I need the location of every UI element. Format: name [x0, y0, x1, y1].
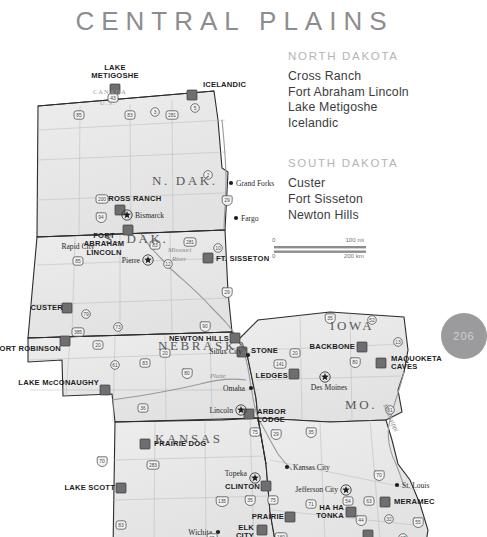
highway-shield[interactable]: 85: [74, 111, 84, 119]
highway-shield[interactable]: 29: [271, 430, 281, 440]
park-marker[interactable]: ELKCITY: [236, 523, 267, 537]
highway-shield[interactable]: 80: [350, 358, 360, 368]
highway-shield[interactable]: 63: [364, 497, 374, 505]
park-marker[interactable]: LAKE SCOTT: [64, 483, 126, 493]
city-dot-icon: [229, 181, 233, 185]
park-marker[interactable]: ICELANDIC: [187, 80, 246, 100]
city-label: Omaha: [223, 384, 246, 393]
river-label: Missouri: [167, 246, 192, 253]
highway-shield[interactable]: 29: [222, 196, 232, 206]
park-marker[interactable]: BACKBONE: [310, 342, 367, 352]
highway-shield[interactable]: 200: [96, 195, 108, 203]
highway-shield[interactable]: 160: [275, 533, 287, 537]
highway-shield[interactable]: 12: [164, 260, 173, 269]
city-marker[interactable]: Grand Forks: [229, 179, 274, 188]
park-label: STONE: [251, 346, 278, 355]
highway-shield[interactable]: 44: [356, 516, 366, 526]
shield-number: 70: [376, 473, 382, 478]
shield-number: 35: [247, 498, 253, 503]
city-label: Jefferson City: [295, 485, 338, 494]
highway-shield[interactable]: 83: [140, 359, 150, 367]
highway-shield[interactable]: 385: [72, 328, 84, 336]
highway-shield[interactable]: 36: [138, 404, 148, 412]
highway-shield[interactable]: 141: [274, 360, 286, 368]
city-label: Grand Forks: [236, 179, 274, 188]
park-label: CUSTER: [31, 303, 64, 312]
highway-shield[interactable]: 90: [200, 322, 210, 332]
highway-shield[interactable]: 281: [184, 238, 196, 246]
highway-shield[interactable]: 29: [222, 288, 232, 298]
shield-number: 141: [276, 362, 284, 367]
city-dot-icon: [285, 465, 289, 469]
park-marker[interactable]: CUSTER: [31, 303, 72, 313]
park-square-icon: [257, 525, 267, 535]
park-square-icon: [376, 358, 386, 368]
highway-shield[interactable]: 94: [96, 213, 106, 223]
highway-shield[interactable]: 73: [114, 323, 123, 332]
highway-shield[interactable]: 70: [97, 457, 107, 467]
shield-number: 55: [415, 520, 421, 525]
highway-shield[interactable]: 54: [343, 497, 353, 505]
city-marker[interactable]: Fargo: [234, 214, 259, 223]
city-label: Rapid City: [61, 242, 94, 251]
highway-shield[interactable]: 20: [93, 341, 103, 349]
state-label: N. DAK.: [152, 173, 218, 188]
park-label: FT. SISSETON: [216, 254, 269, 263]
shield-number: 44: [358, 518, 364, 523]
highway-shield[interactable]: 75: [250, 428, 260, 436]
park-marker[interactable]: LEDGES: [256, 369, 299, 380]
park-label: MAQUOKETACAVES: [391, 354, 442, 371]
highway-shield[interactable]: 55: [413, 518, 423, 528]
highway-shield[interactable]: 71: [306, 500, 316, 508]
map-graphic[interactable]: LAKEMETIGOSHEICELANDICCROSS RANCHFORTABR…: [0, 60, 469, 537]
highway-shield[interactable]: 13: [394, 338, 403, 347]
highway-shield[interactable]: 35: [306, 428, 316, 438]
shield-number: 75: [270, 498, 276, 503]
park-marker[interactable]: MERAMEC: [380, 497, 435, 507]
park-label: BACKBONE: [310, 342, 355, 351]
shield-number: 12: [165, 262, 171, 267]
highway-shield[interactable]: 283: [147, 461, 159, 469]
shield-number: 90: [202, 324, 208, 329]
highway-shield[interactable]: 32: [385, 515, 394, 524]
scale-value-top: 100 mi: [345, 236, 364, 243]
highway-shield[interactable]: 20: [290, 349, 300, 357]
highway-shield[interactable]: 10: [214, 244, 223, 253]
highway-shield[interactable]: 79: [82, 310, 91, 319]
park-marker[interactable]: PRAIRIE: [252, 512, 295, 522]
park-label: MERAMEC: [394, 497, 435, 506]
highway-shield[interactable]: 85: [73, 257, 83, 265]
park-square-icon: [203, 253, 213, 263]
park-label: ICELANDIC: [203, 80, 246, 89]
scale-value-bottom: 200 km: [344, 252, 364, 259]
highway-shield[interactable]: 83: [125, 111, 135, 119]
park-marker[interactable]: CLINTON: [225, 481, 271, 491]
highway-shield[interactable]: 35: [245, 496, 255, 506]
city-dot-icon: [216, 530, 220, 534]
city-dot-icon: [249, 386, 253, 390]
shield-number: 29: [224, 198, 230, 203]
shield-number: 54: [345, 499, 351, 504]
shield-number: 80: [184, 371, 190, 376]
shield-number: 85: [76, 113, 82, 118]
shield-number: 10: [215, 246, 221, 251]
park-marker[interactable]: FT. SISSETON: [203, 253, 269, 263]
city-label: Lincoln: [209, 406, 233, 415]
highway-shield[interactable]: 61: [111, 361, 120, 370]
city-label: Topeka: [225, 469, 248, 478]
city-label: St. Louis: [402, 481, 429, 490]
shield-number: 61: [112, 363, 118, 368]
highway-shield[interactable]: 5: [191, 104, 200, 113]
shield-number: 281: [168, 113, 176, 118]
highway-shield[interactable]: 70: [374, 471, 384, 481]
city-label: Des Moines: [311, 383, 348, 392]
highway-shield[interactable]: 3: [151, 108, 160, 117]
park-square-icon: [244, 409, 254, 419]
highway-shield[interactable]: 75: [268, 496, 278, 504]
highway-shield[interactable]: 80: [182, 369, 192, 379]
highway-shield[interactable]: 83: [116, 521, 126, 529]
highway-shield[interactable]: 135: [216, 497, 228, 507]
city-dot-icon: [234, 216, 238, 220]
highway-shield[interactable]: 281: [166, 111, 178, 119]
